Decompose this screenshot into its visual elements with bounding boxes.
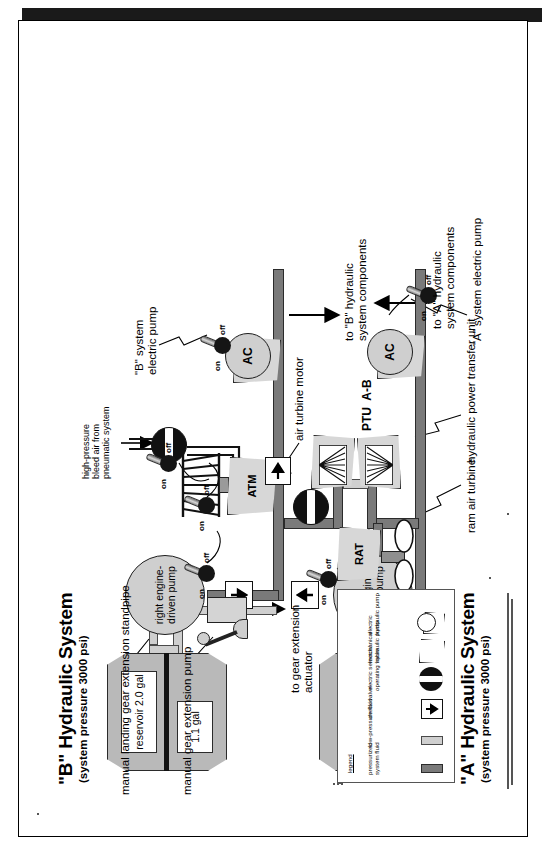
legend-symbol-mechanical-pump xyxy=(419,639,445,663)
label-ptu-symbol: PTU A-B xyxy=(361,379,374,431)
switch-manual-1[interactable]: on off xyxy=(187,553,217,587)
switch-rat[interactable]: on off xyxy=(309,559,339,593)
switch-on-label: on xyxy=(213,361,222,371)
switch-b-electric-pump[interactable]: on off xyxy=(203,325,233,359)
title-b-system: "B" Hydraulic System xyxy=(55,593,76,785)
legend-symbol-pressurized xyxy=(421,764,443,773)
switch-on-label: on xyxy=(419,311,428,321)
ptu-vanes-a-icon xyxy=(365,445,393,485)
switch-off-label: off xyxy=(324,559,333,569)
switch-on-label: on xyxy=(319,595,328,605)
legend-card xyxy=(341,783,343,785)
electric-pump-a: AC xyxy=(367,329,413,375)
label-gear-actuator: to gear extension actuator xyxy=(289,605,315,693)
check-valve-arrow-icon xyxy=(271,462,285,480)
label-a-output: to "A" hydraulic system components xyxy=(431,227,457,329)
pipe-ptu-b-branch xyxy=(333,483,343,529)
legend-symbol-electric-pump xyxy=(417,609,445,635)
label-bleed-air: high-pressure bleed air from pneumatic s… xyxy=(81,406,111,479)
legend-outline xyxy=(507,513,509,515)
check-valve-arrow-icon xyxy=(425,703,439,715)
rat-propeller-icon xyxy=(389,519,419,593)
subtitle-a-system: (system pressure 3000 psi) xyxy=(479,635,492,783)
switch-atm[interactable]: on off xyxy=(149,443,179,477)
manual-pump-handle-knob[interactable] xyxy=(197,632,210,645)
schematic-page: reservoir 2.0 gal 1.1 gal right engine- … xyxy=(0,0,542,845)
ptu-vanes-b-icon xyxy=(319,445,347,485)
legend-main xyxy=(489,577,491,579)
pipe-b-pressure-main xyxy=(273,269,284,601)
rat-pump-body: RAT xyxy=(337,527,381,581)
switch-manual-2[interactable]: on off xyxy=(187,485,217,519)
manual-pump-pivot xyxy=(233,619,248,639)
legend-symbol-selector-valve xyxy=(419,667,443,691)
legend-display xyxy=(507,595,509,785)
legend-wrap xyxy=(337,783,339,785)
legend-symbol-check-valve xyxy=(421,699,443,719)
label-manual-pump-callout: manual gear extension pump xyxy=(181,647,194,795)
label-standpipe-callout: manual landing gear extension standpipe xyxy=(119,585,132,795)
label-a-electric-pump: "A" system electric pump xyxy=(471,218,484,345)
label-air-turbine-motor: air turbine motor xyxy=(293,357,306,441)
switch-off-label: off xyxy=(202,485,211,495)
diagram-canvas: reservoir 2.0 gal 1.1 gal right engine- … xyxy=(37,3,539,815)
legend-label-electric-pump: electric hydraulic pump xyxy=(367,575,381,635)
subtitle-b-system: (system pressure 3000 psi) xyxy=(77,635,90,783)
label-b-output: to "B" hydraulic system components xyxy=(343,239,369,341)
legend-title: legend xyxy=(347,754,354,773)
switch-on-label: on xyxy=(159,479,168,489)
switch-on-label: on xyxy=(197,589,206,599)
check-valve-ptu xyxy=(265,457,291,485)
title-a-system: "A" Hydraulic System xyxy=(457,593,478,785)
switch-off-label: off xyxy=(202,553,211,563)
label-b-electric-pump: "B" system electric pump xyxy=(133,307,159,375)
switch-off-label: off xyxy=(164,443,173,453)
atm-shaft-collar xyxy=(219,477,229,493)
label-ram-air-turbine: ram air turbine xyxy=(465,459,478,533)
switch-off-label: off xyxy=(218,325,227,335)
switch-on-label: on xyxy=(197,521,206,531)
reservoir-b-divider xyxy=(164,653,169,771)
selector-valve-ptu[interactable] xyxy=(293,489,329,525)
legend-symbol-low-pressure xyxy=(421,736,443,745)
diagram-frame: reservoir 2.0 gal 1.1 gal right engine- … xyxy=(18,20,528,837)
